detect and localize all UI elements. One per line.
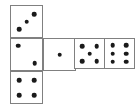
- pip: [124, 43, 129, 48]
- pip: [87, 51, 92, 56]
- face-top-left: [10, 5, 43, 38]
- face-mid-second: [43, 38, 76, 71]
- face-mid-left: [10, 38, 43, 71]
- pip: [110, 59, 115, 64]
- pip: [110, 43, 115, 48]
- face-bottom-left: [10, 71, 43, 104]
- pip: [24, 19, 29, 24]
- pip: [110, 51, 115, 56]
- pip: [80, 59, 85, 64]
- face-mid-third: [74, 38, 105, 69]
- pip: [94, 44, 99, 49]
- pip: [32, 61, 37, 66]
- pip: [124, 51, 129, 56]
- pip: [16, 44, 21, 49]
- pip: [17, 93, 22, 98]
- pip: [32, 93, 37, 98]
- pip: [17, 78, 22, 83]
- pip: [94, 59, 99, 64]
- dice-net-figure: Unfolded cube net made of six square dic…: [0, 0, 138, 107]
- face-mid-fourth: [104, 38, 135, 69]
- pip: [32, 12, 37, 17]
- pip: [124, 59, 129, 64]
- pip: [80, 44, 85, 49]
- pip: [32, 78, 37, 83]
- pip: [57, 52, 62, 57]
- pip: [17, 27, 22, 32]
